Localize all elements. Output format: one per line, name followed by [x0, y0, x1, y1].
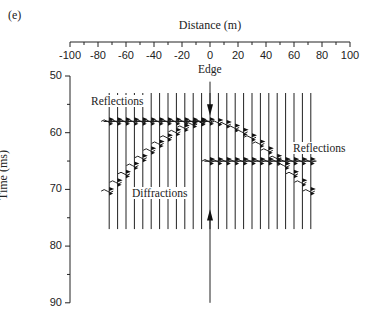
wavelet-peak	[227, 120, 232, 124]
y-tick-label: 50	[32, 69, 62, 81]
x-tick-label: 40	[260, 49, 272, 61]
x-tick-label: -40	[146, 49, 162, 61]
x-tick-label: 0	[207, 49, 213, 61]
diffractions-label: Diffractions	[131, 187, 188, 199]
wavelet-peak	[109, 187, 114, 191]
wavelet-peak	[252, 133, 257, 137]
x-tick-label: -60	[118, 49, 134, 61]
x-tick-label: 100	[341, 49, 359, 61]
y-tick-label: 60	[32, 126, 62, 138]
wavelet-peak	[235, 123, 240, 127]
wavelet-peak	[218, 118, 223, 122]
wavelet-peak	[143, 154, 148, 158]
y-axis-title: Time (ms)	[0, 150, 11, 200]
y-tick-label: 80	[32, 239, 62, 251]
wavelet-peak	[126, 170, 131, 174]
wavelet-peak	[160, 139, 165, 143]
reflections-left-label: Reflections	[90, 95, 144, 107]
wavelet-peak	[134, 162, 139, 166]
x-tick-label: 20	[232, 49, 244, 61]
wavelet-peak	[269, 146, 274, 150]
x-tick-label: -80	[90, 49, 106, 61]
wavelet-peak	[294, 170, 299, 174]
x-tick-label: -100	[59, 49, 81, 61]
wavelet-peak	[151, 146, 156, 150]
reflections-right-label: Reflections	[292, 142, 346, 154]
y-tick-label: 70	[32, 182, 62, 194]
wavelet-peak	[118, 178, 123, 182]
x-tick-label: 60	[288, 49, 300, 61]
x-tick-label: -20	[174, 49, 190, 61]
y-tick-label: 90	[32, 296, 62, 308]
x-tick-label: 80	[316, 49, 328, 61]
edge-arrow-down-icon	[207, 104, 213, 115]
wavelet-peak	[244, 128, 249, 132]
edge-label: Edge	[197, 63, 223, 75]
wavelet-peak	[277, 154, 282, 158]
bottom-arrow-up-icon	[207, 209, 213, 220]
wavelet-peak	[260, 139, 265, 143]
wavelet-peak	[176, 128, 181, 132]
wavelet-peak	[302, 178, 307, 182]
wavelet-peak	[311, 187, 316, 191]
wavelet-peak	[168, 133, 173, 137]
